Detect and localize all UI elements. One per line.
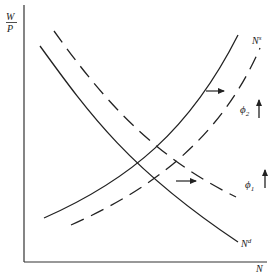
phi2-label: ϕ2	[240, 103, 250, 118]
y-axis-label-denominator: P	[6, 23, 13, 34]
y-axis-label-numerator: W	[6, 11, 16, 22]
labor-supply-shifted-curve	[71, 48, 260, 225]
labor-demand-shifted-curve	[54, 31, 236, 197]
labor-demand-label: Nd	[240, 237, 252, 249]
labor-demand-initial-curve	[40, 46, 238, 242]
x-axis-label: N	[255, 263, 264, 274]
labor-supply-initial-curve	[44, 35, 238, 218]
phi1-label: ϕ1	[245, 178, 254, 193]
diagram-canvas: W P N Ns Nd ϕ2 ϕ1	[0, 0, 274, 277]
labor-market-diagram: W P N Ns Nd ϕ2 ϕ1	[0, 0, 274, 277]
labor-supply-label: Ns	[251, 34, 262, 46]
